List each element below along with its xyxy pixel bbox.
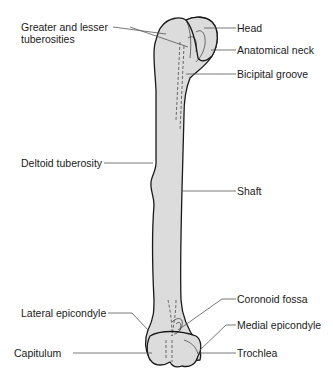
label-head: Head — [237, 22, 262, 34]
label-capitulum: Capitulum — [14, 347, 61, 359]
label-anatomical-neck: Anatomical neck — [237, 44, 314, 56]
label-shaft: Shaft — [237, 185, 262, 197]
label-lateral-epicondyle: Lateral epicondyle — [21, 307, 106, 319]
label-deltoid-tuberosity: Deltoid tuberosity — [21, 157, 102, 169]
condyles — [147, 332, 201, 367]
label-medial-epicondyle: Medial epicondyle — [237, 319, 321, 331]
leader-lateral-epicondyle — [108, 313, 148, 330]
label-coronoid-fossa: Coronoid fossa — [237, 293, 308, 305]
leader-medial-epicondyle — [200, 325, 236, 350]
humerus-bone — [146, 17, 218, 367]
label-trochlea: Trochlea — [237, 347, 277, 359]
label-bicipital-groove: Bicipital groove — [237, 68, 308, 80]
label-tuberosities: Greater and lesser tuberosities — [21, 21, 121, 45]
